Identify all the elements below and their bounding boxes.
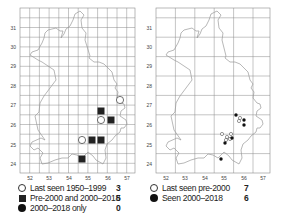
open-circle-icon <box>229 132 232 135</box>
open-circle-icon <box>150 184 158 192</box>
x-tick-label: 55 <box>221 175 227 181</box>
y-tick-label: 30 <box>10 44 16 50</box>
open-circle-icon <box>237 119 240 122</box>
open-circle-icon <box>78 136 85 143</box>
legend-item: Last seen pre-2000 7 <box>150 183 270 193</box>
filled-circle-icon <box>234 113 237 116</box>
legend-count: 0 <box>116 203 120 213</box>
open-circle-icon <box>238 116 241 119</box>
filled-circle-icon <box>242 118 245 121</box>
x-tick-label: 56 <box>241 175 247 181</box>
legend-label: Pre-2000 and 2000–2018 <box>30 193 120 203</box>
y-tick-label: 29 <box>146 63 152 69</box>
y-tick-label: 31 <box>10 25 16 31</box>
legend-label: Last seen pre-2000 <box>162 183 230 193</box>
legend-right: Last seen pre-2000 7 Seen 2000–2018 6 <box>150 183 270 203</box>
county-outline-right <box>166 11 263 164</box>
filled-square-icon <box>108 117 115 124</box>
legend-item: Seen 2000–2018 6 <box>150 193 270 203</box>
y-tick-label: 26 <box>146 122 152 128</box>
legend-item: 2000–2018 only 0 <box>18 203 138 213</box>
legend-count: 6 <box>244 193 248 203</box>
x-tick-label: 53 <box>182 175 188 181</box>
filled-square-icon <box>98 108 105 115</box>
legend-item: Last seen 1950–1999 3 <box>18 183 138 193</box>
filled-circle-icon <box>223 141 226 144</box>
legend-label: 2000–2018 only <box>30 203 86 213</box>
x-tick-label: 54 <box>66 175 72 181</box>
y-tick-label: 25 <box>10 142 16 148</box>
legend-count: 3 <box>116 183 120 193</box>
x-tick-label: 56 <box>105 175 111 181</box>
x-tick-label: 52 <box>27 175 33 181</box>
x-tick-label: 55 <box>85 175 91 181</box>
legend-label: Seen 2000–2018 <box>162 193 223 203</box>
filled-circle-icon <box>230 136 233 139</box>
legend-label: Last seen 1950–1999 <box>30 183 106 193</box>
x-tick-label: 53 <box>46 175 52 181</box>
y-tick-label: 28 <box>146 83 152 89</box>
open-circle-icon <box>225 135 228 138</box>
x-tick-label: 57 <box>260 175 266 181</box>
open-circle-icon <box>18 184 26 192</box>
y-tick-label: 25 <box>146 142 152 148</box>
y-tick-label: 30 <box>146 44 152 50</box>
filled-circle-icon <box>242 123 245 126</box>
open-circle-icon <box>220 132 223 135</box>
y-tick-label: 24 <box>146 161 152 167</box>
filled-square-icon <box>79 156 86 163</box>
map-right-grid: 5253545556573130292827262524 <box>146 8 270 181</box>
filled-square-icon <box>19 195 26 202</box>
y-tick-label: 26 <box>10 122 16 128</box>
y-tick-label: 27 <box>10 102 16 108</box>
filled-square-icon <box>98 137 105 144</box>
filled-circle-icon <box>219 157 222 160</box>
y-tick-label: 28 <box>10 83 16 89</box>
x-tick-label: 54 <box>202 175 208 181</box>
filled-circle-icon <box>18 204 26 212</box>
legend-left: Last seen 1950–1999 3 Pre-2000 and 2000–… <box>18 183 138 213</box>
y-tick-label: 27 <box>146 102 152 108</box>
open-circle-icon <box>116 96 123 103</box>
map-left-grid: 5253545556573130292827262524 <box>10 8 135 181</box>
filled-circle-icon <box>150 194 158 202</box>
legend-item: Pre-2000 and 2000–2018 5 <box>18 193 138 203</box>
legend-count: 5 <box>116 193 120 203</box>
x-tick-label: 52 <box>163 175 169 181</box>
y-tick-label: 24 <box>10 161 16 167</box>
filled-square-icon <box>89 137 96 144</box>
open-circle-icon <box>97 116 104 123</box>
y-tick-label: 31 <box>146 25 152 31</box>
y-tick-label: 29 <box>10 63 16 69</box>
legend-count: 7 <box>244 183 248 193</box>
open-circle-icon <box>224 138 227 141</box>
x-tick-label: 57 <box>124 175 130 181</box>
